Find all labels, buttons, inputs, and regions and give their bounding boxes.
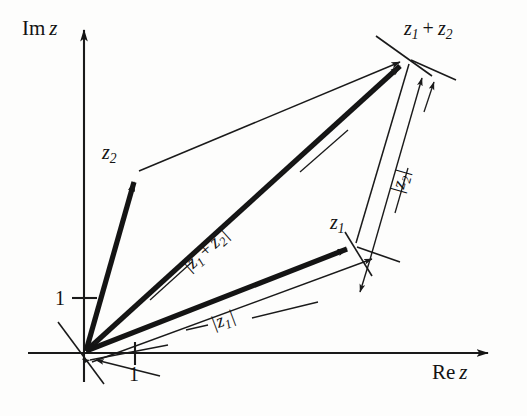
vector-label-z2: z2: [102, 142, 117, 166]
measure-mod-sum: [94, 68, 398, 344]
vector-label-sum: z1+z2: [404, 18, 452, 42]
axis-label-real-variable: z: [459, 360, 467, 384]
vector-label-z1-sub: 1: [338, 221, 345, 236]
vector-label-sum-sub2: 2: [446, 27, 453, 42]
axis-label-imaginary: Imz: [22, 18, 58, 39]
tick-label-real-one: 1: [129, 364, 139, 384]
axis-label-imaginary-variable: z: [49, 16, 57, 40]
vector-label-sum-sub1: 1: [412, 27, 419, 42]
origin-leader-arrow: [96, 360, 160, 376]
endpoint-caps-z1: [345, 232, 400, 276]
axis-label-real-prefix: Re: [432, 360, 455, 384]
complex-plane-figure: Imz Rez 1 1 z2 z1 z1+z2 |z1| |z2| |z1+z2…: [0, 0, 527, 416]
vector-label-z1: z1: [330, 212, 345, 236]
vector-label-z2-sub: 2: [110, 151, 117, 166]
parallelogram-edges: [139, 62, 409, 243]
vector-z2-arrow: [86, 182, 134, 351]
diagram-canvas: [0, 0, 527, 416]
axis-label-imaginary-prefix: Im: [22, 16, 45, 40]
vector-label-z2-base: z: [102, 141, 110, 163]
vector-label-sum-operator: +: [423, 17, 434, 39]
tick-label-imaginary-one: 1: [55, 288, 65, 308]
axis-label-real: Rez: [432, 362, 468, 383]
vector-label-sum-base2: z: [438, 17, 446, 39]
vector-label-z1-base: z: [330, 211, 338, 233]
vector-label-sum-base1: z: [404, 17, 412, 39]
